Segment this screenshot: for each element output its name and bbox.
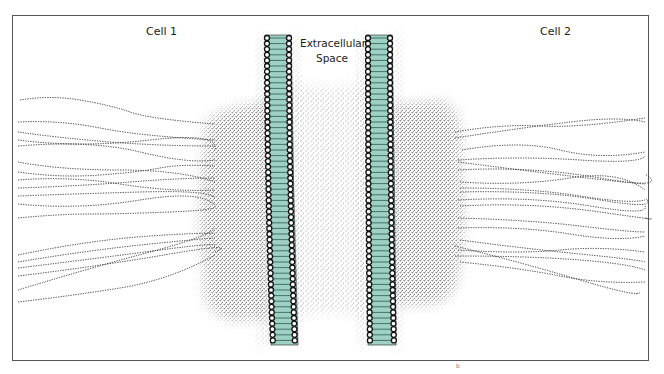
extracellular-label-line1: Extracellular xyxy=(300,36,364,51)
cell-1-label: Cell 1 xyxy=(146,25,177,38)
cell-2-membrane xyxy=(366,35,397,345)
corner-mark: b xyxy=(456,362,460,369)
extracellular-space-label: Extracellular Space xyxy=(300,36,364,66)
extracellular-label-line2: Space xyxy=(300,51,364,66)
cell-2-label: Cell 2 xyxy=(540,25,571,38)
